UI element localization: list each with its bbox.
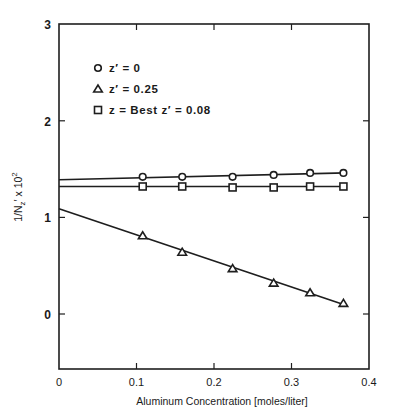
square-marker-icon bbox=[95, 107, 102, 114]
circle-marker-icon bbox=[229, 174, 236, 181]
circle-marker-icon bbox=[139, 174, 146, 181]
plot-frame bbox=[59, 24, 369, 369]
x-axis-title: Aluminum Concentration [moles/liter] bbox=[136, 395, 308, 407]
fit-line bbox=[59, 209, 346, 306]
series-triangle bbox=[59, 209, 348, 307]
triangle-marker-icon bbox=[138, 232, 147, 239]
x-tick-label: 0 bbox=[56, 376, 62, 388]
series-circle bbox=[59, 170, 347, 180]
x-tick-label: 0.1 bbox=[129, 376, 144, 388]
axis-ticks bbox=[59, 24, 369, 369]
svg-text:1/Nz′ x 102: 1/Nz′ x 102 bbox=[10, 172, 27, 222]
circle-marker-icon bbox=[340, 170, 347, 177]
plot-border bbox=[59, 24, 369, 369]
square-marker-icon bbox=[270, 184, 277, 191]
triangle-marker-icon bbox=[94, 85, 103, 92]
y-tick-label: 1 bbox=[44, 211, 51, 225]
y-tick-label: 3 bbox=[44, 18, 51, 32]
circle-marker-icon bbox=[179, 174, 186, 181]
square-marker-icon bbox=[340, 183, 347, 190]
fit-line bbox=[59, 173, 346, 180]
y-axis-title: 1/Nz′ x 102 bbox=[10, 172, 27, 222]
circle-marker-icon bbox=[95, 65, 102, 72]
circle-marker-icon bbox=[270, 172, 277, 179]
legend: z′ = 0z′ = 0.25z = Best z′ = 0.08 bbox=[94, 62, 211, 116]
legend-label: z = Best z′ = 0.08 bbox=[109, 104, 211, 116]
chart: 00.10.20.30.40123 z′ = 0z′ = 0.25z = Bes… bbox=[0, 0, 393, 420]
series-layer bbox=[59, 170, 348, 307]
x-tick-label: 0.2 bbox=[206, 376, 221, 388]
y-tick-label: 2 bbox=[44, 115, 51, 129]
legend-label: z′ = 0.25 bbox=[109, 83, 158, 95]
y-tick-label: 0 bbox=[44, 308, 51, 322]
triangle-marker-icon bbox=[306, 289, 315, 296]
circle-marker-icon bbox=[307, 170, 314, 177]
x-tick-label: 0.4 bbox=[361, 376, 376, 388]
x-tick-label: 0.3 bbox=[284, 376, 299, 388]
y-axis-title-main: 1/N bbox=[12, 205, 24, 221]
square-marker-icon bbox=[229, 184, 236, 191]
square-marker-icon bbox=[307, 183, 314, 190]
square-marker-icon bbox=[179, 183, 186, 190]
triangle-marker-icon bbox=[339, 299, 348, 306]
square-marker-icon bbox=[139, 183, 146, 190]
y-axis-title-sup: 2 bbox=[10, 172, 19, 177]
tick-labels: 00.10.20.30.40123 bbox=[44, 18, 376, 388]
series-square bbox=[59, 183, 347, 191]
y-axis-title-mult: x 10 bbox=[12, 177, 24, 200]
legend-label: z′ = 0 bbox=[109, 62, 141, 74]
